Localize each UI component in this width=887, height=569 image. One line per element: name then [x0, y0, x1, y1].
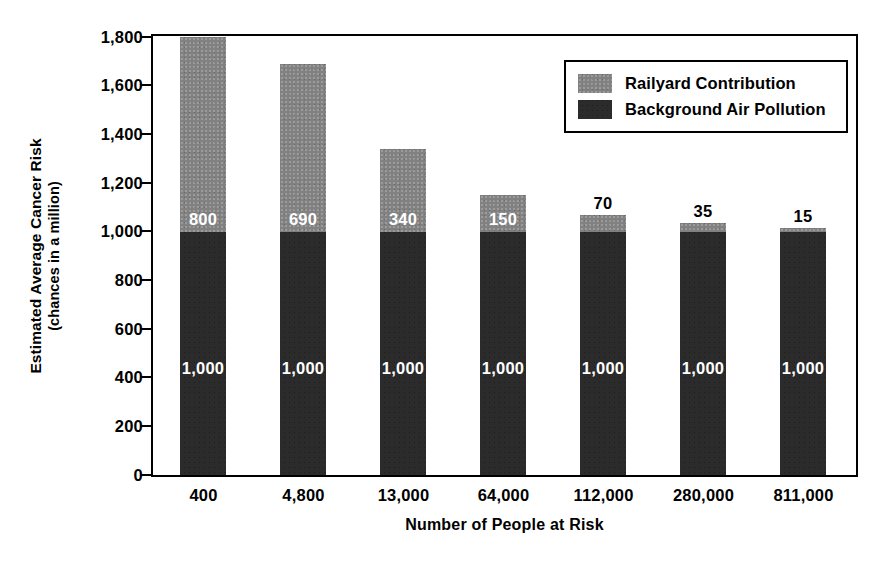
x-axis-tick-label: 280,000 [673, 486, 734, 505]
bar-value-label-background-air: 1,000 [280, 359, 326, 378]
x-axis-tick-label: 4,800 [282, 486, 324, 505]
bar-segment-railyard[interactable]: 70 [580, 215, 626, 232]
bar-segment-background-air[interactable]: 1,000 [780, 232, 826, 475]
bar-segment-railyard[interactable]: 15 [780, 228, 826, 232]
legend-label-background-air: Background Air Pollution [625, 100, 826, 119]
x-axis-title: Number of People at Risk [151, 516, 858, 534]
bar-value-label-railyard: 800 [180, 210, 226, 229]
bar-value-label-background-air: 1,000 [380, 359, 426, 378]
bar-group[interactable]: 1,00035 [680, 223, 726, 475]
legend-label-railyard: Railyard Contribution [625, 74, 796, 93]
x-axis-tick-labels: 4004,80013,00064,000112,000280,000811,00… [151, 486, 858, 510]
bar-value-label-railyard: 150 [480, 210, 526, 229]
chart-legend: Railyard Contribution Background Air Pol… [564, 60, 848, 133]
plot-frame: 1,0008001,0006901,0003401,0001501,000701… [151, 34, 858, 477]
x-axis-tick-label: 64,000 [478, 486, 530, 505]
bar-value-label-railyard: 70 [580, 194, 626, 213]
bar-group[interactable]: 1,00015 [780, 228, 826, 475]
bar-segment-background-air[interactable]: 1,000 [180, 232, 226, 475]
bar-segment-background-air[interactable]: 1,000 [380, 232, 426, 475]
x-axis-tick-label: 112,000 [573, 486, 633, 505]
bar-value-label-railyard: 15 [780, 207, 826, 226]
legend-item-background-air[interactable]: Background Air Pollution [578, 96, 836, 122]
bar-value-label-railyard: 340 [380, 210, 426, 229]
bar-value-label-background-air: 1,000 [480, 359, 526, 378]
bar-value-label-background-air: 1,000 [780, 359, 826, 378]
legend-item-railyard[interactable]: Railyard Contribution [578, 70, 836, 96]
bar-group[interactable]: 1,000800 [180, 37, 226, 475]
bar-segment-railyard[interactable]: 150 [480, 195, 526, 232]
bar-group[interactable]: 1,000340 [380, 149, 426, 475]
bar-segment-railyard[interactable]: 35 [680, 223, 726, 232]
bar-group[interactable]: 1,00070 [580, 215, 626, 475]
bar-segment-background-air[interactable]: 1,000 [580, 232, 626, 475]
bar-segment-railyard[interactable]: 690 [280, 64, 326, 232]
bar-value-label-background-air: 1,000 [180, 359, 226, 378]
x-axis-tick-label: 13,000 [378, 486, 430, 505]
bar-segment-background-air[interactable]: 1,000 [680, 232, 726, 475]
bar-segment-background-air[interactable]: 1,000 [480, 232, 526, 475]
bar-segment-railyard[interactable]: 340 [380, 149, 426, 232]
bar-group[interactable]: 1,000150 [480, 195, 526, 475]
x-axis-tick-label: 400 [189, 486, 217, 505]
bar-value-label-background-air: 1,000 [580, 359, 626, 378]
legend-swatch-background-air-icon [578, 100, 612, 119]
legend-swatch-railyard-icon [578, 74, 612, 93]
bar-value-label-railyard: 690 [280, 210, 326, 229]
bar-group[interactable]: 1,000690 [280, 64, 326, 475]
bar-value-label-background-air: 1,000 [680, 359, 726, 378]
bar-value-label-railyard: 35 [680, 202, 726, 221]
x-axis-tick-label: 811,000 [773, 486, 833, 505]
bar-segment-railyard[interactable]: 800 [180, 37, 226, 232]
bar-segment-background-air[interactable]: 1,000 [280, 232, 326, 475]
bar-chart-figure: Estimated Average Cancer Risk (chances i… [0, 0, 887, 569]
